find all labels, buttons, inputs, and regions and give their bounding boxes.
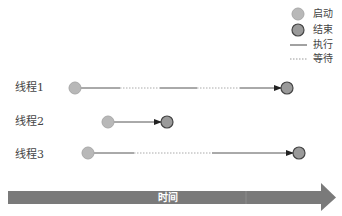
- legend-run-label: 执行: [313, 39, 333, 51]
- thread-3-end-icon: [293, 147, 305, 159]
- legend-end-label: 结束: [313, 24, 333, 36]
- thread-1-start-icon: [69, 82, 81, 94]
- thread-3-label: 线程3: [15, 149, 44, 161]
- thread-2-label: 线程2: [15, 116, 44, 128]
- diagram-graphics: [0, 0, 342, 216]
- legend: [290, 8, 307, 59]
- thread-3-start-icon: [82, 147, 94, 159]
- thread-2-timeline: [102, 116, 173, 128]
- thread-2-start-icon: [102, 116, 114, 128]
- legend-start-label: 启动: [313, 8, 333, 20]
- legend-start-icon: [292, 8, 304, 20]
- thread-1-timeline: [69, 82, 293, 94]
- legend-wait-label: 等待: [313, 53, 333, 65]
- thread-timeline-diagram: 启动 结束 执行 等待 线程1 线程2 线程3 时间: [0, 0, 342, 216]
- thread-1-label: 线程1: [15, 82, 44, 94]
- thread-3-timeline: [82, 147, 305, 159]
- thread-1-end-icon: [281, 82, 293, 94]
- legend-end-icon: [292, 24, 304, 36]
- time-axis-label: 时间: [158, 192, 178, 204]
- thread-2-end-icon: [161, 116, 173, 128]
